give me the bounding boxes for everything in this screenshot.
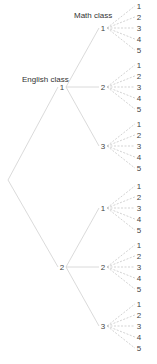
math-node-1-3: 3	[101, 142, 105, 151]
english-node-2: 2	[60, 263, 64, 272]
edge-math-1-1-to-leaf-4	[107, 28, 135, 39]
edge-root-to-english-2	[8, 180, 58, 267]
leaf-node-2-3-1: 1	[137, 299, 141, 308]
leaf-node-1-1-5: 5	[137, 46, 141, 55]
edge-math-1-3-to-leaf-4	[107, 146, 135, 157]
leaf-node-2-1-3: 3	[137, 204, 141, 213]
leaf-node-2-1-2: 2	[137, 192, 141, 201]
leaf-node-2-1-1: 1	[137, 181, 141, 190]
edge-math-2-3-to-leaf-4	[107, 326, 135, 337]
leaf-node-1-2-3: 3	[137, 83, 141, 92]
leaf-node-2-1-4: 4	[137, 215, 141, 224]
leaf-node-1-3-4: 4	[137, 153, 141, 162]
leaf-node-1-2-4: 4	[137, 94, 141, 103]
edge-math-2-1-to-leaf-2	[107, 197, 135, 208]
edge-math-1-3-to-leaf-5	[107, 146, 135, 168]
edge-english-1-to-math-1	[66, 28, 99, 87]
edge-math-2-2-to-leaf-2	[107, 256, 135, 267]
edge-math-2-1-to-leaf-1	[107, 186, 135, 208]
leaf-node-1-3-3: 3	[137, 142, 141, 151]
edge-math-2-3-to-leaf-5	[107, 326, 135, 348]
leaf-node-2-2-1: 1	[137, 240, 141, 249]
leaf-node-1-2-5: 5	[137, 105, 141, 114]
edge-math-2-2-to-leaf-1	[107, 245, 135, 267]
leaf-node-1-2-1: 1	[137, 60, 141, 69]
leaf-node-2-1-5: 5	[137, 226, 141, 235]
edge-math-1-3-to-leaf-2	[107, 135, 135, 146]
edge-math-2-3-to-leaf-2	[107, 315, 135, 326]
leaf-node-1-2-2: 2	[137, 71, 141, 80]
edge-english-2-to-math-3	[66, 267, 99, 326]
math-node-1-2: 2	[101, 83, 105, 92]
edge-math-2-2-to-leaf-4	[107, 267, 135, 278]
edge-english-1-to-math-3	[66, 87, 99, 146]
leaf-node-2-2-4: 4	[137, 274, 141, 283]
edge-math-1-2-to-leaf-5	[107, 87, 135, 109]
english-node-1: 1	[60, 83, 64, 92]
edge-math-2-1-to-leaf-5	[107, 208, 135, 230]
leaf-node-2-3-2: 2	[137, 310, 141, 319]
leaf-node-1-1-3: 3	[137, 24, 141, 33]
edge-math-2-1-to-leaf-4	[107, 208, 135, 219]
tree-edges	[0, 0, 157, 364]
math-node-1-1: 1	[101, 24, 105, 33]
edge-root-to-english-1	[8, 87, 58, 180]
edge-math-2-2-to-leaf-5	[107, 267, 135, 289]
edge-math-1-2-to-leaf-2	[107, 76, 135, 87]
leaf-node-1-3-1: 1	[137, 119, 141, 128]
leaf-node-1-1-2: 2	[137, 12, 141, 21]
leaf-node-1-3-5: 5	[137, 164, 141, 173]
edge-math-1-2-to-leaf-4	[107, 87, 135, 98]
math-node-2-3: 3	[101, 322, 105, 331]
math-node-2-2: 2	[101, 263, 105, 272]
leaf-node-1-1-1: 1	[137, 1, 141, 10]
leaf-node-2-3-4: 4	[137, 333, 141, 342]
leaf-node-2-2-2: 2	[137, 251, 141, 260]
edge-english-2-to-math-1	[66, 208, 99, 267]
leaf-node-2-2-3: 3	[137, 263, 141, 272]
math-node-2-1: 1	[101, 204, 105, 213]
leaf-node-2-2-5: 5	[137, 285, 141, 294]
edge-math-2-3-to-leaf-1	[107, 304, 135, 326]
edge-math-1-3-to-leaf-1	[107, 124, 135, 146]
edge-math-1-2-to-leaf-1	[107, 65, 135, 87]
edge-math-1-1-to-leaf-5	[107, 28, 135, 50]
leaf-node-1-3-2: 2	[137, 130, 141, 139]
leaf-node-1-1-4: 4	[137, 35, 141, 44]
leaf-node-2-3-3: 3	[137, 322, 141, 331]
level2-heading: Math class	[74, 11, 112, 20]
leaf-node-2-3-5: 5	[137, 344, 141, 353]
